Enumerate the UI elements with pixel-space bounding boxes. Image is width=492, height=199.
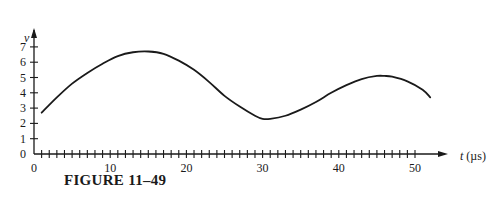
axes <box>31 28 448 157</box>
line-chart: 0102030405001234567 v t (µs) <box>0 0 492 199</box>
svg-text:20: 20 <box>180 161 192 175</box>
svg-text:5: 5 <box>20 71 26 85</box>
x-axis-label: t (µs) <box>460 149 486 163</box>
svg-text:0: 0 <box>20 147 26 161</box>
data-curve <box>42 51 431 119</box>
svg-text:1: 1 <box>20 132 26 146</box>
svg-text:6: 6 <box>20 55 26 69</box>
svg-text:3: 3 <box>20 101 26 115</box>
svg-text:0: 0 <box>31 161 37 175</box>
svg-text:4: 4 <box>20 86 26 100</box>
svg-text:40: 40 <box>333 161 345 175</box>
y-axis-label: v <box>24 31 30 45</box>
axis-ticks <box>30 47 415 158</box>
svg-text:30: 30 <box>257 161 269 175</box>
svg-text:50: 50 <box>409 161 421 175</box>
figure-caption: FIGURE 11–49 <box>64 172 166 189</box>
svg-text:2: 2 <box>20 116 26 130</box>
